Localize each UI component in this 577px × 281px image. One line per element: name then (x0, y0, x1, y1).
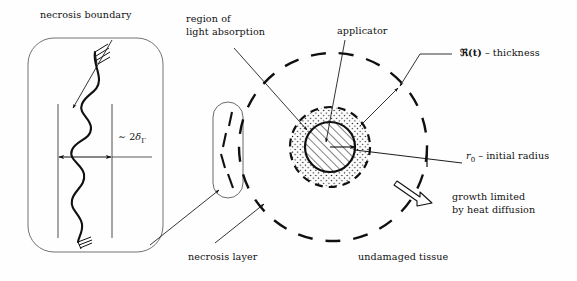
thickness-leader-line (400, 54, 452, 86)
thickness-word: thickness (493, 47, 540, 58)
initial-radius-leader-line (355, 150, 462, 163)
initial-radius-subscript: 0 (471, 156, 476, 164)
label-region-of-light-absorption: region of light absorption (186, 12, 265, 38)
thickness-span-arrow (360, 88, 398, 126)
necrosis-boundary-curve (71, 52, 99, 242)
growth-limited-line-2: by heat diffusion (452, 203, 535, 216)
label-thickness: ℜ(t)–thickness (460, 47, 540, 59)
necrosis-layer-leader-line-right (215, 204, 264, 243)
initial-radius-word: initial radius (486, 150, 549, 161)
boundary-hatch-bottom (78, 237, 92, 249)
label-applicator: applicator (337, 25, 387, 37)
label-initial-radius: r0–initial radius (466, 150, 549, 166)
capsule-dashes (221, 112, 233, 188)
thickness-dash: – (485, 47, 490, 58)
inset-vertical-guide-lines (58, 104, 112, 238)
necrosis-boundary-leader-line (73, 40, 112, 108)
growth-direction-hollow-arrow (394, 181, 432, 206)
label-light-absorption-line-2: light absorption (186, 25, 265, 38)
label-necrosis-boundary: necrosis boundary (40, 9, 131, 21)
scale-tilde: ∼ (118, 131, 126, 142)
label-necrosis-thickness-scale: ∼2δΓ (118, 131, 146, 147)
growth-limited-line-1: growth limited (452, 190, 535, 203)
label-growth-limited: growth limited by heat diffusion (452, 190, 535, 216)
necrosis-layer-capsule (150, 102, 264, 245)
thickness-symbol: ℜ(t) (460, 47, 482, 58)
label-undamaged-tissue: undamaged tissue (358, 251, 448, 263)
label-necrosis-layer: necrosis layer (188, 251, 257, 263)
label-light-absorption-line-1: region of (186, 12, 265, 25)
necrosis-growth-diagram (0, 0, 577, 281)
scale-delta-subscript: Γ (141, 137, 146, 145)
necrosis-layer-leader-line-left (150, 190, 219, 245)
initial-radius-dash: – (478, 150, 483, 161)
